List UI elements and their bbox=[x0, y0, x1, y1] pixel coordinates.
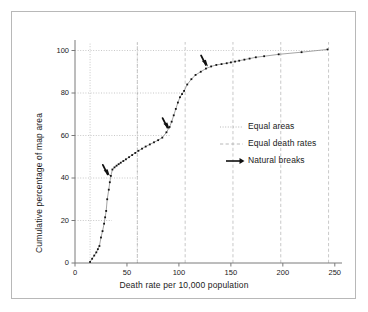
natural-breaks-arrows-group bbox=[103, 55, 208, 175]
data-point bbox=[110, 175, 112, 177]
data-point bbox=[145, 146, 147, 148]
data-point bbox=[301, 51, 303, 53]
data-point bbox=[179, 96, 181, 98]
data-point bbox=[97, 248, 99, 250]
x-tick-label: 0 bbox=[66, 268, 84, 277]
data-point bbox=[125, 158, 127, 160]
data-point bbox=[166, 131, 168, 133]
legend-symbol-natural-breaks-head bbox=[240, 158, 245, 164]
data-point bbox=[114, 166, 116, 168]
data-point bbox=[238, 60, 240, 62]
x-axis-label: Death rate per 10,000 population bbox=[0, 280, 368, 290]
data-point bbox=[104, 216, 106, 218]
data-point bbox=[116, 165, 118, 167]
data-point bbox=[91, 258, 93, 260]
data-point bbox=[226, 62, 228, 64]
y-tick-label: 100 bbox=[49, 46, 69, 55]
data-point bbox=[106, 198, 108, 200]
y-axis-label: Cumulative percentage of map area bbox=[34, 113, 44, 253]
data-point bbox=[89, 261, 91, 263]
legend-item-dotted: Equal areas bbox=[248, 121, 294, 131]
x-tick-label: 150 bbox=[222, 268, 240, 277]
x-tick-label: 50 bbox=[118, 268, 136, 277]
legend-item-dashed: Equal death rates bbox=[248, 138, 316, 148]
x-tick-label: 250 bbox=[326, 268, 344, 277]
data-point bbox=[128, 156, 130, 158]
data-point bbox=[120, 162, 122, 164]
data-point bbox=[230, 62, 232, 64]
data-point bbox=[173, 114, 175, 116]
gridlines-group bbox=[75, 42, 329, 263]
data-point bbox=[278, 53, 280, 55]
data-point bbox=[195, 74, 197, 76]
y-tick-label: 0 bbox=[49, 258, 69, 267]
data-point bbox=[190, 78, 192, 80]
data-point bbox=[157, 139, 159, 141]
data-point bbox=[177, 102, 179, 104]
data-point bbox=[103, 223, 105, 225]
data-point bbox=[249, 58, 251, 60]
data-point bbox=[161, 137, 163, 139]
data-point bbox=[215, 64, 217, 66]
data-point bbox=[134, 152, 136, 154]
data-point bbox=[108, 189, 110, 191]
data-point bbox=[141, 148, 143, 150]
data-point bbox=[171, 121, 173, 123]
data-point bbox=[243, 59, 245, 61]
data-point bbox=[205, 68, 207, 70]
data-point bbox=[327, 49, 329, 51]
data-point bbox=[186, 84, 188, 86]
y-tick-label: 20 bbox=[49, 216, 69, 225]
data-point bbox=[255, 56, 257, 58]
natural-break-arrow-head bbox=[202, 60, 208, 67]
natural-break-arrow-head bbox=[104, 169, 110, 176]
data-point bbox=[183, 90, 185, 92]
x-tick-label: 200 bbox=[274, 268, 292, 277]
natural-break-arrow-head bbox=[163, 123, 169, 130]
data-point bbox=[122, 160, 124, 162]
y-tick-label: 80 bbox=[49, 88, 69, 97]
y-tick-label: 60 bbox=[49, 131, 69, 140]
data-point bbox=[99, 245, 101, 247]
data-point bbox=[234, 61, 236, 63]
data-point bbox=[105, 210, 107, 212]
data-point bbox=[210, 66, 212, 68]
data-point bbox=[100, 237, 102, 239]
data-point bbox=[137, 150, 139, 152]
data-point bbox=[131, 154, 133, 156]
data-point bbox=[200, 71, 202, 73]
y-tick-label: 40 bbox=[49, 173, 69, 182]
data-point bbox=[149, 144, 151, 146]
axes-group bbox=[75, 40, 342, 263]
data-point bbox=[112, 169, 114, 171]
x-tick-label: 100 bbox=[170, 268, 188, 277]
data-point bbox=[93, 255, 95, 257]
legend-symbols-group bbox=[220, 127, 245, 164]
data-point bbox=[118, 163, 120, 165]
data-point bbox=[175, 108, 177, 110]
legend-item-arrow: Natural breaks bbox=[248, 155, 305, 165]
data-point bbox=[153, 141, 155, 143]
data-point bbox=[221, 63, 223, 65]
data-point bbox=[102, 230, 104, 232]
data-point bbox=[109, 181, 111, 183]
data-point bbox=[181, 93, 183, 95]
data-point bbox=[95, 251, 97, 253]
data-point bbox=[263, 55, 265, 57]
